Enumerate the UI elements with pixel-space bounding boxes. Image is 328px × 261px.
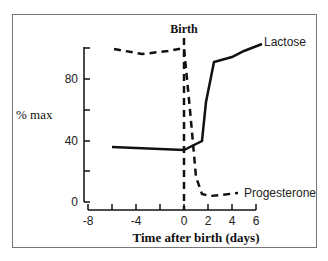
- progesterone-line: [114, 48, 238, 196]
- x-tick-4: 4: [229, 214, 236, 228]
- x-tick-0: 0: [181, 214, 188, 228]
- y-axis: [84, 47, 90, 202]
- y-tick-0: 0: [71, 195, 78, 209]
- birth-label: Birth: [170, 22, 198, 36]
- x-tick-m8: -8: [83, 214, 94, 228]
- chart: 80 40 0 % max -8 -4 0 2 4 6 Time after b…: [0, 0, 328, 261]
- x-axis: [88, 204, 256, 210]
- lactose-line: [112, 44, 262, 150]
- y-tick-80: 80: [65, 72, 79, 86]
- lactose-label: Lactose: [264, 35, 306, 49]
- y-tick-40: 40: [65, 134, 79, 148]
- x-tick-m4: -4: [131, 214, 142, 228]
- x-axis-label: Time after birth (days): [133, 230, 260, 245]
- progesterone-label: Progesterone: [244, 186, 316, 200]
- x-tick-6: 6: [253, 214, 260, 228]
- x-tick-2: 2: [205, 214, 212, 228]
- y-axis-label: % max: [16, 107, 53, 122]
